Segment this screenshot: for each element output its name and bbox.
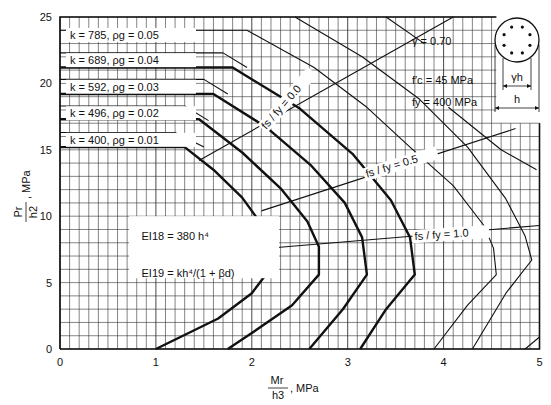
- x-tick-label: 4: [441, 356, 447, 368]
- svg-text:Mr: Mr: [271, 374, 284, 386]
- x-tick-label: 1: [153, 356, 159, 368]
- svg-text:Pr: Pr: [12, 206, 24, 217]
- ei18-note: EI18 = 380 h⁴: [142, 230, 210, 242]
- svg-text:γh: γh: [511, 71, 523, 83]
- interaction-curve: [525, 337, 539, 349]
- interaction-diagram: k = 785, ρg = 0.05k = 689, ρg = 0.04k = …: [0, 0, 551, 405]
- fc-param: f′c = 45 MPa: [412, 74, 474, 86]
- x-tick-label: 0: [57, 356, 63, 368]
- svg-text:, MPa: , MPa: [20, 169, 32, 199]
- svg-text:fs / fy = 0.5: fs / fy = 0.5: [364, 152, 419, 179]
- series-label: k = 592, ρg = 0.03: [70, 81, 159, 93]
- x-tick-label: 3: [345, 356, 351, 368]
- series-label: k = 689, ρg = 0.04: [70, 54, 159, 66]
- interaction-curve: [448, 107, 536, 169]
- svg-text:h3: h3: [272, 389, 284, 401]
- svg-text:h: h: [514, 93, 520, 105]
- y-tick-label: 10: [40, 210, 52, 222]
- column-section-icon: γhh: [495, 18, 539, 112]
- gamma-param: γ = 0.70: [412, 35, 451, 47]
- y-tick-label: 15: [40, 144, 52, 156]
- x-axis-label: Mrh3, MPa: [268, 374, 320, 401]
- stress-ratio-label: fs / fy = 0.5: [362, 146, 439, 181]
- ei19-note: EI19 = kh⁴/(1 + βd): [142, 267, 235, 279]
- y-tick-label: 25: [40, 11, 52, 23]
- series-label: k = 400, ρg = 0.01: [70, 134, 159, 146]
- y-tick-label: 20: [40, 77, 52, 89]
- y-tick-label: 5: [46, 277, 52, 289]
- interaction-curve: [295, 17, 532, 349]
- x-tick-label: 5: [536, 356, 542, 368]
- fy-param: fy = 400 MPa: [412, 96, 478, 108]
- stress-ratio-label: fs / fy = 1.0: [412, 225, 489, 243]
- svg-text:, MPa: , MPa: [290, 382, 320, 394]
- stress-ratio-lines: [199, 17, 539, 248]
- series-label: k = 496, ρg = 0.02: [70, 107, 159, 119]
- y-axis-label: Prh2, MPa: [12, 169, 39, 222]
- svg-text:h2: h2: [27, 206, 39, 218]
- series-label: k = 785, ρg = 0.05: [70, 29, 159, 41]
- y-tick-label: 0: [46, 343, 52, 355]
- x-tick-label: 2: [249, 356, 255, 368]
